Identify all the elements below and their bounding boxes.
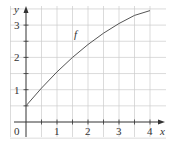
- curve-label-f: f: [74, 28, 79, 40]
- x-axis-arrow-icon: [158, 120, 165, 125]
- axes: [14, 6, 165, 137]
- x-tick-label: 3: [116, 125, 122, 137]
- y-tick-label: 1: [14, 84, 20, 96]
- y-tick-label: 3: [14, 19, 20, 31]
- y-axis-arrow-icon: [24, 6, 29, 13]
- y-tick-label: 2: [14, 51, 20, 63]
- tick-labels: 1234123: [14, 19, 153, 137]
- x-axis-label: x: [159, 125, 165, 137]
- origin-label: 0: [14, 125, 20, 137]
- function-graph: 1234123 x y 0 f: [0, 0, 170, 143]
- x-tick-label: 4: [147, 125, 153, 137]
- x-tick-label: 2: [85, 125, 91, 137]
- y-axis-label: y: [13, 3, 19, 15]
- grid-lines: [10, 6, 166, 138]
- x-tick-label: 1: [54, 125, 60, 137]
- tick-marks: [24, 25, 151, 124]
